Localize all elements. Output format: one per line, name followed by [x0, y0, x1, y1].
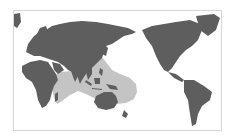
- map-svg: [0, 0, 237, 139]
- world-map: [0, 0, 237, 139]
- land-borneo: [94, 78, 100, 84]
